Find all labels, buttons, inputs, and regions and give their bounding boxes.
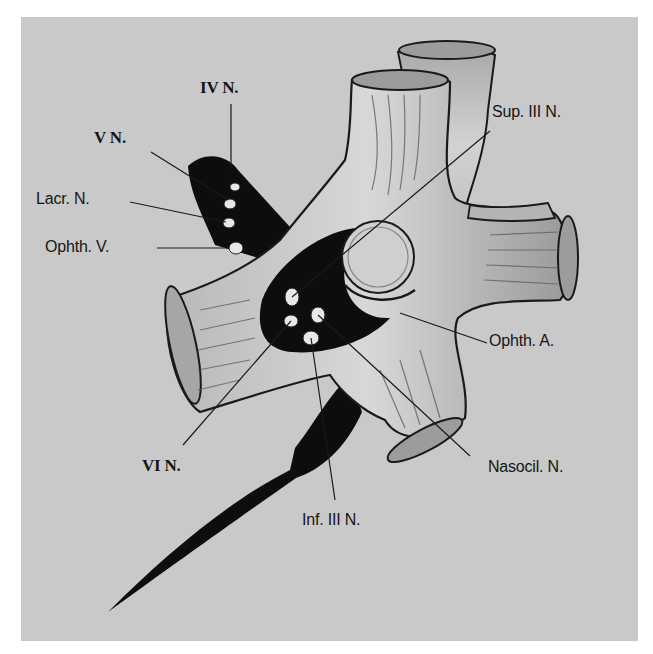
label-ophthalmic-artery: Ophth. A. bbox=[489, 332, 554, 350]
label-iv-nerve: IV N. bbox=[200, 78, 238, 98]
orbital-apex-illustration bbox=[0, 0, 653, 654]
optic-canal bbox=[342, 221, 414, 293]
label-lacrimal-nerve: Lacr. N. bbox=[36, 190, 90, 208]
label-nasociliary-nerve: Nasocil. N. bbox=[488, 458, 563, 476]
label-ophthalmic-vein: Ophth. V. bbox=[45, 238, 109, 256]
label-vi-nerve: VI N. bbox=[142, 456, 181, 476]
label-inferior-iii-nerve: Inf. III N. bbox=[302, 511, 360, 529]
label-superior-iii-nerve: Sup. III N. bbox=[492, 103, 561, 121]
inferior-fissure bbox=[108, 378, 362, 612]
label-v-nerve: V N. bbox=[94, 128, 126, 148]
